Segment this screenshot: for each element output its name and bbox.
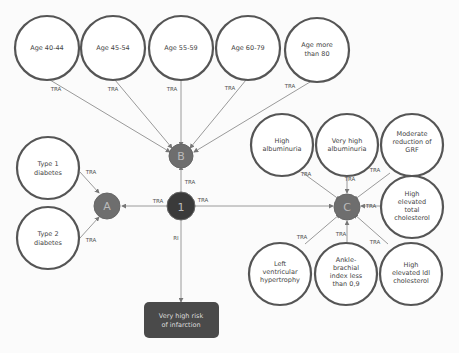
node-label: Type 2 — [36, 230, 58, 238]
node-label: diabetes — [34, 239, 63, 247]
lv-hypertrophy-node[interactable]: Left ventricular hypertrophy — [249, 243, 311, 305]
svg-text:High: High — [275, 137, 290, 145]
node-label: Age 45-54 — [96, 44, 130, 52]
edge-label: TRA — [152, 198, 164, 204]
edge-label: RI — [173, 235, 179, 241]
edge-highalb-c — [303, 173, 340, 200]
svg-text:elevated ldl: elevated ldl — [392, 269, 430, 277]
type1-diabetes-node[interactable]: Type 1 diabetes — [17, 137, 79, 199]
svg-text:albuminuria: albuminuria — [263, 145, 302, 153]
svg-text:High: High — [404, 261, 419, 269]
svg-text:Very high: Very high — [332, 137, 363, 145]
ankle-brachial-index-node[interactable]: Ankle- brachial index less than 0,9 — [315, 243, 377, 305]
svg-text:reduction of: reduction of — [392, 138, 432, 146]
age-node-2[interactable]: Age 45-54 — [81, 16, 145, 80]
high-albuminuria-node[interactable]: High albuminuria — [251, 114, 313, 176]
edge-label: TRA — [85, 169, 97, 175]
age-node-4[interactable]: Age 60-79 — [216, 16, 280, 80]
edge-label: TRA — [365, 203, 377, 209]
edge-type2-a — [80, 217, 99, 238]
node-label: than 80 — [304, 50, 329, 58]
svg-text:elevated: elevated — [398, 198, 426, 206]
hub-c[interactable]: C — [334, 194, 360, 220]
svg-text:hypertrophy: hypertrophy — [260, 276, 300, 284]
edge-label: TRA — [85, 237, 97, 243]
edge-label: TRA — [300, 171, 312, 177]
age-node-5[interactable]: Age more than 80 — [285, 18, 349, 82]
moderate-grf-reduction-node[interactable]: Moderate reduction of GRF — [381, 114, 443, 176]
outcome-box[interactable]: Very high risk of infarction — [144, 302, 219, 338]
edge-label: TRA — [369, 167, 381, 173]
edge-label: TRA — [284, 83, 296, 89]
edge-label: TRA — [184, 179, 196, 185]
edge-label: TRA — [197, 197, 209, 203]
svg-text:Left: Left — [274, 260, 287, 268]
svg-text:Ankle-: Ankle- — [336, 256, 357, 264]
edge-label: TRA — [166, 86, 178, 92]
svg-text:B: B — [177, 150, 185, 163]
edge-type1-a — [80, 172, 99, 193]
svg-text:ventricular: ventricular — [262, 268, 297, 276]
high-total-cholesterol-node[interactable]: High elevated total cholesterol — [381, 176, 443, 238]
svg-text:C: C — [343, 201, 351, 214]
hub-center[interactable]: 1 — [167, 192, 195, 220]
svg-text:than 0,9: than 0,9 — [332, 280, 359, 288]
edge-lvh-c — [305, 214, 340, 244]
age-node-1[interactable]: Age 40-44 — [15, 16, 79, 80]
edge-label: TRA — [224, 85, 236, 91]
type2-diabetes-node[interactable]: Type 2 diabetes — [17, 207, 79, 269]
svg-text:High: High — [405, 190, 420, 198]
edge-label: TRA — [296, 234, 308, 240]
svg-text:cholesterol: cholesterol — [394, 214, 430, 222]
svg-text:A: A — [103, 200, 111, 213]
node-label: Type 1 — [36, 160, 58, 168]
svg-text:GRF: GRF — [405, 146, 419, 154]
svg-text:brachial: brachial — [333, 264, 359, 272]
edge-label: TRA — [107, 86, 119, 92]
node-label: Age 55-59 — [164, 44, 198, 52]
node-label: Age 60-79 — [231, 44, 265, 52]
node-label: Age more — [301, 41, 332, 49]
svg-text:Moderate: Moderate — [397, 130, 428, 138]
svg-text:total: total — [405, 206, 420, 214]
edge-label: TRA — [50, 86, 62, 92]
svg-text:1: 1 — [178, 201, 185, 214]
svg-text:Very high risk: Very high risk — [159, 312, 204, 320]
node-label: diabetes — [34, 169, 63, 177]
very-high-albuminuria-node[interactable]: Very high albuminuria — [316, 114, 378, 176]
high-ldl-cholesterol-node[interactable]: High elevated ldl cholesterol — [380, 243, 442, 305]
edge-age2-b — [115, 80, 172, 148]
age-node-3[interactable]: Age 55-59 — [149, 16, 213, 80]
svg-text:albuminuria: albuminuria — [328, 145, 367, 153]
edge-label: TRA — [335, 231, 347, 237]
hub-b[interactable]: B — [169, 144, 193, 168]
node-label: Age 40-44 — [30, 44, 64, 52]
svg-text:of infarction: of infarction — [161, 321, 200, 329]
svg-text:cholesterol: cholesterol — [393, 277, 429, 285]
hub-a[interactable]: A — [94, 193, 120, 219]
svg-text:index less: index less — [330, 272, 363, 280]
edge-label: TRA — [369, 239, 381, 245]
diagram-canvas: TRA TRA TRA TRA TRA TRA TRA TRA RI TRA T… — [0, 0, 459, 353]
